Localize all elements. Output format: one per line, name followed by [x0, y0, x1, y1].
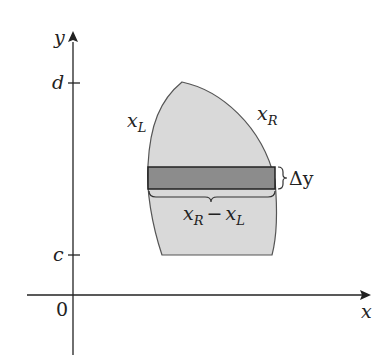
origin-label: 0 — [56, 298, 68, 320]
tick-label-d: d — [52, 71, 64, 93]
y-axis-arrow-icon — [68, 31, 78, 42]
left-boundary-label: xL — [127, 109, 146, 135]
height-brace — [278, 167, 287, 189]
x-axis-label: x — [361, 300, 372, 322]
right-boundary-label: xR — [257, 102, 278, 128]
region-diagram: y d c 0 x xL xR Δy xR−xL — [0, 0, 389, 358]
y-axis-label: y — [53, 26, 65, 48]
tick-label-c: c — [53, 243, 64, 265]
horizontal-strip — [148, 167, 275, 189]
delta-y-label: Δy — [289, 167, 314, 189]
